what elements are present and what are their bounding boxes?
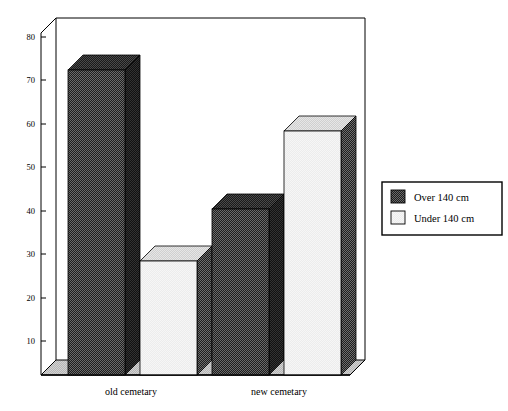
bar-chart-3d: 80 70 60 50 40 30 20 10 — [0, 0, 508, 411]
y-tick-label: 10 — [27, 336, 36, 346]
x-category-label-old: old cemetary — [105, 386, 157, 397]
legend-label-over140: Over 140 cm — [414, 192, 469, 203]
x-axis-category-labels: old cemetary new cemetary — [105, 386, 307, 397]
y-tick-label: 70 — [27, 75, 36, 85]
y-tick-label: 50 — [27, 162, 36, 172]
legend-swatch-over140 — [391, 190, 405, 203]
y-tick-label: 30 — [27, 249, 36, 259]
y-tick-label: 80 — [27, 32, 36, 42]
x-category-label-new: new cemetary — [251, 386, 307, 397]
y-axis-tick-labels: 80 70 60 50 40 30 20 10 — [27, 32, 36, 346]
bar-new-under140[interactable] — [284, 116, 356, 375]
y-tick-label: 40 — [27, 206, 36, 216]
y-axis-ticks — [41, 37, 46, 341]
legend: Over 140 cm Under 140 cm — [382, 182, 502, 235]
y-tick-label: 20 — [27, 293, 36, 303]
y-tick-label: 60 — [27, 119, 36, 129]
bar-old-over140[interactable] — [68, 55, 140, 375]
bar-old-under140[interactable] — [140, 246, 212, 375]
bar-new-over140[interactable] — [212, 194, 284, 375]
legend-label-under140: Under 140 cm — [414, 213, 474, 224]
chart-container: 80 70 60 50 40 30 20 10 — [0, 0, 508, 411]
legend-swatch-under140 — [391, 211, 405, 224]
